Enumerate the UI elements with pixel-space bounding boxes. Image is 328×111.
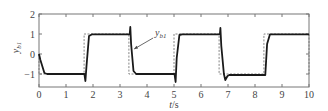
x-tick-label: 3 bbox=[118, 89, 123, 100]
y-tick-label: 2 bbox=[30, 9, 35, 20]
annotations: yb1 bbox=[134, 27, 166, 49]
x-tick-label: 8 bbox=[253, 89, 258, 100]
x-axis-label: t/s bbox=[169, 99, 179, 110]
tick-labels: 012345678910−1012 bbox=[24, 9, 314, 101]
x-tick-label: 4 bbox=[145, 89, 150, 100]
annotation-label: yb1 bbox=[154, 27, 166, 40]
data-series bbox=[39, 27, 309, 82]
chart: 012345678910−1012 yb1 t/s yb1 bbox=[0, 0, 328, 111]
x-tick-label: 7 bbox=[226, 89, 231, 100]
x-tick-label: 10 bbox=[304, 89, 314, 100]
x-tick-label: 0 bbox=[37, 89, 42, 100]
x-tick-label: 2 bbox=[91, 89, 96, 100]
y-tick-label: 0 bbox=[30, 49, 35, 60]
x-tick-label: 9 bbox=[280, 89, 285, 100]
x-tick-label: 6 bbox=[199, 89, 204, 100]
y-axis-label: yb1 bbox=[10, 42, 23, 54]
x-tick-label: 1 bbox=[64, 89, 69, 100]
y-tick-label: −1 bbox=[24, 69, 35, 80]
y-tick-label: 1 bbox=[30, 29, 35, 40]
